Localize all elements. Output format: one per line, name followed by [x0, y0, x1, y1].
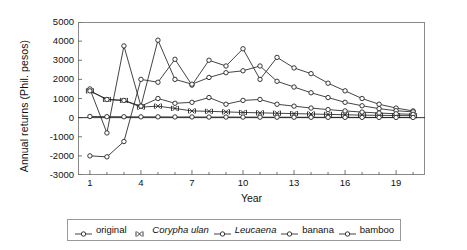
legend-item-banana[interactable]: banana: [280, 225, 334, 235]
x-tick-label: 4: [138, 178, 143, 188]
y-tick-label: 1000: [28, 94, 74, 104]
chart-legend: originalCorypha ulanLeucaenabananabamboo: [67, 219, 401, 241]
chart-figure: Annual returns (Phil. pesos) 50004000300…: [0, 0, 467, 250]
x-tick-label: 1: [87, 178, 92, 188]
circle-marker-icon: [280, 225, 299, 235]
circle-marker-icon: [338, 225, 357, 235]
circle-marker-icon: [213, 225, 232, 235]
x-tick-label: 16: [340, 178, 351, 188]
y-tick-label: -3000: [28, 170, 74, 180]
x-tick-label: 10: [238, 178, 249, 188]
series-corypha-ulan: [86, 88, 416, 118]
legend-label: Corypha ulan: [152, 225, 209, 235]
x-tick-label: 7: [189, 178, 194, 188]
series-canvas: [78, 22, 425, 175]
legend-item-original[interactable]: original: [74, 225, 127, 235]
y-tick-label: 2000: [28, 75, 74, 85]
legend-item-corypha-ulan[interactable]: Corypha ulan: [130, 225, 209, 235]
y-axis-tick-labels: 500040003000200010000-1000-2000-3000: [24, 22, 74, 175]
y-tick-label: 5000: [28, 17, 74, 27]
legend-label: bamboo: [360, 225, 394, 235]
legend-item-leucaena[interactable]: Leucaena: [213, 225, 277, 235]
x-axis-tick-labels: 14710131619: [78, 178, 425, 192]
circle-marker-icon: [74, 225, 93, 235]
y-tick-label: -1000: [28, 132, 74, 142]
plot-area: [78, 22, 425, 175]
legend-item-bamboo[interactable]: bamboo: [338, 225, 394, 235]
legend-label: Leucaena: [235, 225, 277, 235]
y-tick-label: 3000: [28, 56, 74, 66]
series-leucaena: [88, 38, 416, 135]
legend-label: original: [96, 225, 127, 235]
y-tick-label: 4000: [28, 36, 74, 46]
x-axis-title: Year: [78, 192, 425, 204]
legend-label: banana: [302, 225, 334, 235]
y-tick-label: -2000: [28, 151, 74, 161]
series-original: [88, 47, 416, 159]
y-tick-label: 0: [28, 113, 74, 123]
x-marker-icon: [130, 225, 149, 235]
x-tick-label: 19: [391, 178, 402, 188]
x-tick-label: 13: [289, 178, 300, 188]
